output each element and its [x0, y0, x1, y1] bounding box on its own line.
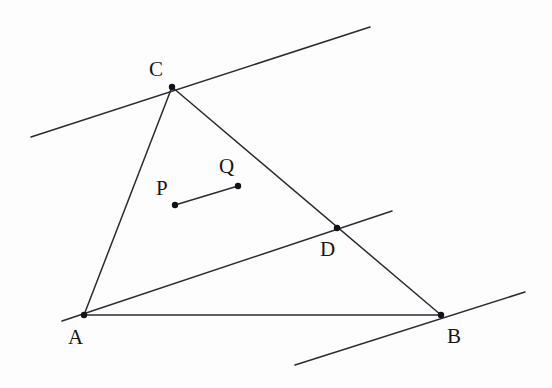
vertex-dot-q [235, 183, 241, 189]
point-label-b: B [447, 326, 461, 347]
point-label-q: Q [219, 156, 234, 177]
vertex-dot-d [334, 225, 340, 231]
segment-PQ [175, 186, 238, 205]
point-label-d: D [320, 239, 335, 260]
tangent-line-at-B [295, 292, 525, 365]
vertex-dot-a [81, 312, 87, 318]
tangent-line-at-C [31, 27, 370, 137]
vertex-dot-p [172, 202, 178, 208]
vertex-dot-c [169, 84, 175, 90]
triangle-side-AC [84, 87, 172, 315]
lines-group [31, 27, 525, 365]
point-label-p: P [156, 178, 168, 199]
triangle-side-CB [172, 87, 441, 315]
vertex-dot-b [438, 312, 444, 318]
geometry-figure: ABCDPQ [0, 0, 552, 388]
dots-group [81, 84, 444, 318]
point-label-c: C [149, 59, 163, 80]
point-label-a: A [68, 327, 83, 348]
line-through-A-and-D [62, 211, 392, 321]
